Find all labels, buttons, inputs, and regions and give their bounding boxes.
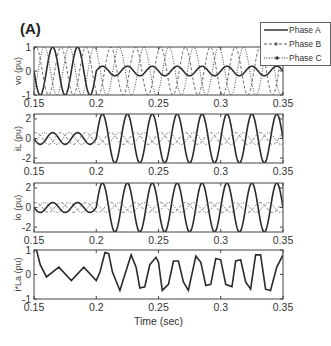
legend-label: Phase B — [289, 39, 321, 49]
y-axis-label: iL (pu) — [13, 126, 23, 151]
y-tick-label: -1 — [22, 90, 31, 101]
x-tick-label: 0.25 — [148, 301, 169, 313]
x-tick-label: 0.25 — [148, 97, 169, 109]
x-tick-label: 0.25 — [148, 234, 169, 246]
y-tick-label: 2 — [25, 182, 31, 193]
series-phase-a — [34, 183, 283, 232]
legend-label: Phase C — [289, 53, 322, 63]
subplot-1: 0.150.20.250.30.35-101vo (pu) — [13, 42, 293, 110]
dashed-line-icon — [264, 40, 288, 48]
x-tick-label: 0.35 — [273, 301, 294, 313]
series-phase-a — [34, 250, 283, 290]
y-tick-label: -1 — [22, 294, 31, 305]
x-tick-label: 0.2 — [89, 97, 104, 109]
x-tick-label: 0.35 — [273, 165, 294, 177]
x-tick-label: 0.3 — [213, 301, 228, 313]
x-tick-label: 0.3 — [213, 97, 228, 109]
dotted-line-icon — [264, 54, 288, 62]
x-tick-label: 0.35 — [273, 97, 294, 109]
legend-item-phase-c: Phase C — [264, 52, 322, 64]
subplot-4: 0.150.20.250.30.35-101i*La (pu)Time (sec… — [13, 245, 293, 328]
legend-item-phase-a: Phase A — [264, 24, 321, 36]
x-axis-label: Time (sec) — [134, 315, 183, 327]
y-axis-label: io (pu) — [13, 195, 23, 221]
solid-line-icon — [264, 26, 288, 34]
y-tick-label: -2 — [22, 153, 31, 164]
x-tick-label: 0.3 — [213, 234, 228, 246]
y-axis-label: vo (pu) — [13, 57, 23, 85]
subplot-2: 0.150.20.250.30.35-202iL (pu) — [13, 113, 293, 177]
x-tick-label: 0.25 — [148, 165, 169, 177]
x-tick-label: 0.2 — [89, 301, 104, 313]
series-phase-a — [34, 114, 283, 163]
legend: Phase A Phase B Phase C — [260, 22, 331, 66]
y-tick-label: 0 — [25, 66, 31, 77]
panel-label: (A) — [20, 20, 41, 37]
y-tick-label: -2 — [22, 222, 31, 233]
y-tick-label: 1 — [25, 245, 31, 256]
series-phase-a — [34, 47, 283, 95]
y-tick-label: 2 — [25, 113, 31, 124]
legend-label: Phase A — [289, 25, 321, 35]
x-tick-label: 0.2 — [89, 165, 104, 177]
y-tick-label: 0 — [25, 133, 31, 144]
x-tick-label: 0.35 — [273, 234, 294, 246]
axes-frame — [34, 250, 283, 299]
y-axis-label: i*La (pu) — [13, 257, 23, 291]
legend-item-phase-b: Phase B — [264, 38, 321, 50]
y-tick-label: 0 — [25, 202, 31, 213]
x-tick-label: 0.3 — [213, 165, 228, 177]
x-tick-label: 0.2 — [89, 234, 104, 246]
x-tick-label: 0.15 — [24, 165, 45, 177]
subplot-3: 0.150.20.250.30.35-202io (pu) — [13, 182, 293, 246]
y-tick-label: 0 — [25, 269, 31, 280]
y-tick-label: 1 — [25, 42, 31, 53]
